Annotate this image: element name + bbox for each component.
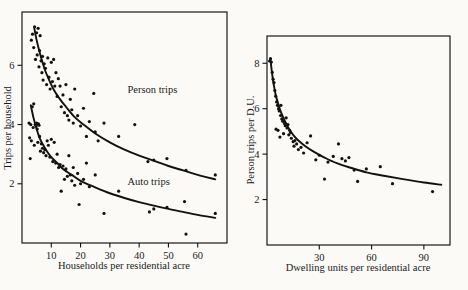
data-point: [302, 151, 305, 154]
data-point: [85, 161, 88, 164]
data-point: [165, 157, 168, 160]
data-point: [66, 114, 69, 117]
data-point: [290, 137, 293, 140]
data-point: [183, 200, 186, 203]
data-point: [34, 58, 37, 61]
data-point: [31, 33, 34, 36]
data-point: [36, 53, 39, 56]
y-tick-label: 2: [9, 178, 14, 189]
data-point: [299, 146, 302, 149]
data-point: [47, 144, 50, 147]
data-point: [30, 139, 33, 142]
left-scatter-points-auto-trips: [27, 102, 216, 236]
data-point: [37, 124, 40, 127]
data-point: [347, 156, 350, 159]
data-point: [56, 153, 59, 156]
data-point: [42, 151, 45, 154]
data-point: [70, 108, 73, 111]
data-point: [391, 182, 394, 185]
data-point: [61, 93, 64, 96]
data-point: [29, 157, 32, 160]
data-point: [292, 145, 295, 148]
chart-panel-right: 306090 2468 Dwelling units per residenti…: [240, 0, 468, 290]
data-point: [92, 92, 95, 95]
x-tick-label: 60: [192, 250, 203, 261]
left-y-axis-title: Trips per household: [2, 85, 13, 169]
data-point: [32, 46, 35, 49]
right-scatter-points: [268, 57, 434, 193]
data-point: [282, 132, 285, 135]
right-fit-curve: [270, 60, 441, 185]
data-point: [64, 83, 67, 86]
left-x-tick-marks: [51, 243, 197, 248]
data-point: [82, 178, 85, 181]
data-point: [146, 160, 149, 163]
data-point: [45, 83, 48, 86]
data-point: [63, 178, 66, 181]
data-point: [431, 190, 434, 193]
data-point: [49, 87, 52, 90]
data-point: [58, 84, 61, 87]
data-point: [57, 77, 60, 80]
data-point: [102, 212, 105, 215]
data-point: [337, 142, 340, 145]
data-point: [278, 135, 281, 138]
data-point: [305, 141, 308, 144]
data-point: [41, 79, 44, 82]
x-tick-label: 10: [46, 250, 57, 261]
data-point: [37, 27, 40, 30]
data-point: [76, 114, 79, 117]
data-point: [340, 157, 343, 160]
left-chart-svg: 102030405060 246 Person trips Auto trips…: [0, 0, 240, 290]
data-point: [60, 190, 63, 193]
left-fit-curve-auto-trips: [31, 105, 216, 218]
data-point: [314, 158, 317, 161]
data-point: [30, 39, 33, 42]
data-point: [36, 141, 39, 144]
data-point: [52, 58, 55, 61]
data-point: [40, 71, 43, 74]
data-point: [326, 160, 329, 163]
data-point: [102, 121, 105, 124]
data-point: [276, 129, 279, 132]
y-tick-label: 6: [9, 60, 14, 71]
data-point: [365, 167, 368, 170]
data-point: [76, 172, 79, 175]
data-point: [297, 148, 300, 151]
y-tick-label: 8: [254, 58, 259, 69]
data-point: [44, 154, 47, 157]
right-chart-svg: 306090 2468 Dwelling units per residenti…: [240, 0, 468, 290]
data-point: [69, 98, 72, 101]
right-x-tick-marks: [319, 245, 424, 250]
data-point: [50, 138, 53, 141]
figure-two-panel-scatter: 102030405060 246 Person trips Auto trips…: [0, 0, 468, 290]
right-y-axis-title: Person trips per D.U.: [245, 96, 256, 185]
left-fit-curve-person-trips: [34, 28, 215, 179]
data-point: [79, 182, 82, 185]
data-point: [323, 178, 326, 181]
data-point: [97, 139, 100, 142]
data-point: [39, 34, 42, 37]
data-point: [295, 142, 298, 145]
data-point: [46, 56, 49, 59]
data-point: [88, 120, 91, 123]
data-point: [73, 184, 76, 187]
data-point: [67, 154, 70, 157]
data-point: [67, 119, 70, 122]
data-point: [356, 180, 359, 183]
data-point: [37, 65, 40, 68]
left-plot-frame: [22, 12, 227, 243]
data-point: [53, 84, 56, 87]
data-point: [184, 233, 187, 236]
data-point: [28, 136, 31, 139]
data-point: [152, 207, 155, 210]
right-x-axis-title: Dwelling units per residential acre: [286, 262, 431, 273]
data-point: [70, 179, 73, 182]
data-point: [85, 135, 88, 138]
left-annotation-auto-trips: Auto trips: [127, 176, 169, 187]
data-point: [32, 102, 35, 105]
data-point: [39, 150, 42, 153]
data-point: [94, 173, 97, 176]
left-x-axis-title: Households per residential acre: [58, 260, 190, 271]
data-point: [46, 139, 49, 142]
